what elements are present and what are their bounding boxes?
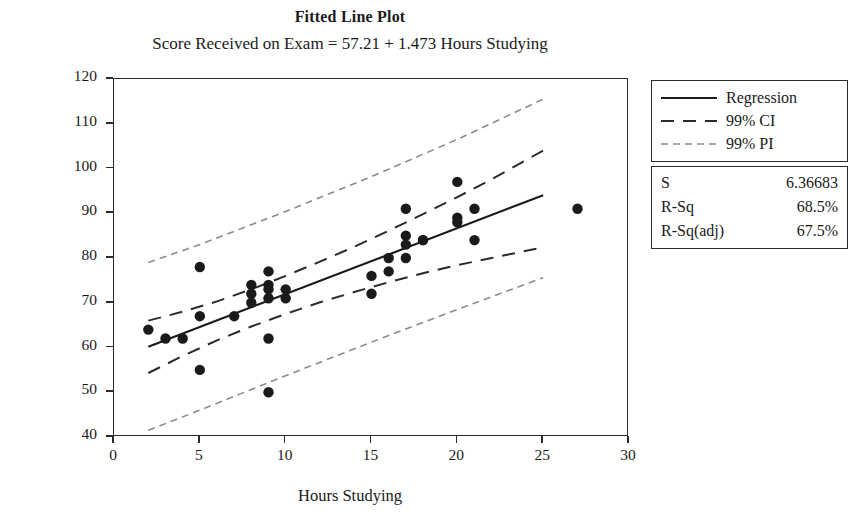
plot-area: [113, 78, 628, 436]
y-tick-mark: [106, 301, 113, 303]
data-point: [246, 289, 256, 299]
dotted-line-key: [652, 138, 726, 150]
y-tick-mark: [106, 390, 113, 392]
stat-value-rsq-adj: 67.5%: [797, 222, 838, 240]
x-tick-mark: [112, 436, 114, 443]
statistics-box: S 6.36683 R-Sq 68.5% R-Sq(adj) 67.5%: [651, 166, 848, 249]
y-tick-label: 60: [51, 336, 97, 354]
x-tick-mark: [456, 436, 458, 443]
data-point: [418, 235, 428, 245]
data-point: [366, 289, 376, 299]
data-point: [263, 387, 273, 397]
legend-label-regression: Regression: [726, 89, 797, 107]
data-point: [452, 217, 462, 227]
fitted-line-plot-figure: Fitted Line Plot Score Received on Exam …: [0, 0, 866, 522]
x-tick-mark: [284, 436, 286, 443]
x-tick-mark: [627, 436, 629, 443]
x-tick-mark: [541, 436, 543, 443]
y-tick-mark: [106, 122, 113, 124]
regression-line: [148, 195, 543, 347]
ci-lower-band: [148, 247, 543, 373]
stat-name-s: S: [661, 174, 670, 192]
y-tick-mark: [106, 256, 113, 258]
y-tick-mark: [106, 167, 113, 169]
y-tick-label: 110: [51, 112, 97, 130]
data-point: [143, 324, 153, 334]
data-point: [195, 311, 205, 321]
data-point: [452, 177, 462, 187]
stat-row-rsq: R-Sq 68.5%: [661, 195, 838, 219]
data-point: [246, 298, 256, 308]
data-point: [229, 311, 239, 321]
y-tick-mark: [106, 77, 113, 79]
pi-lower-band: [148, 278, 543, 431]
x-tick-label: 5: [176, 446, 222, 464]
y-tick-label: 70: [51, 291, 97, 309]
data-point: [177, 333, 187, 343]
x-tick-label: 30: [605, 446, 651, 464]
chart-title: Fitted Line Plot: [0, 8, 700, 26]
data-point: [280, 293, 290, 303]
legend-item: 99% CI: [652, 109, 847, 132]
legend-item: 99% PI: [652, 132, 847, 155]
data-point: [263, 333, 273, 343]
data-point: [572, 204, 582, 214]
legend-box: Regression 99% CI 99% PI: [651, 80, 848, 162]
data-point: [160, 333, 170, 343]
stat-row-rsq-adj: R-Sq(adj) 67.5%: [661, 219, 838, 243]
y-tick-mark: [106, 211, 113, 213]
x-tick-mark: [198, 436, 200, 443]
data-point: [401, 204, 411, 214]
stat-name-rsq: R-Sq: [661, 198, 694, 216]
data-point: [263, 293, 273, 303]
x-tick-label: 15: [348, 446, 394, 464]
x-tick-label: 20: [433, 446, 479, 464]
x-tick-mark: [370, 436, 372, 443]
y-tick-label: 100: [51, 157, 97, 175]
data-point: [401, 253, 411, 263]
y-tick-label: 50: [51, 380, 97, 398]
data-point: [469, 235, 479, 245]
y-tick-label: 120: [51, 67, 97, 85]
data-point: [401, 239, 411, 249]
plot-canvas: [114, 79, 629, 437]
x-axis-label: Hours Studying: [0, 486, 700, 506]
stat-row-s: S 6.36683: [661, 171, 838, 195]
ci-upper-band: [148, 151, 543, 321]
stat-name-rsq-adj: R-Sq(adj): [661, 222, 724, 240]
data-point: [195, 365, 205, 375]
solid-line-key: [652, 92, 726, 104]
data-point: [401, 230, 411, 240]
data-point: [280, 284, 290, 294]
x-tick-label: 25: [519, 446, 565, 464]
data-point: [469, 204, 479, 214]
y-tick-label: 80: [51, 246, 97, 264]
y-tick-label: 40: [51, 425, 97, 443]
data-point: [383, 253, 393, 263]
data-point: [246, 280, 256, 290]
stat-value-s: 6.36683: [786, 174, 838, 192]
pi-upper-band: [148, 99, 543, 262]
data-point: [366, 271, 376, 281]
y-tick-label: 90: [51, 201, 97, 219]
legend-label-ci: 99% CI: [726, 112, 775, 130]
legend-label-pi: 99% PI: [726, 135, 774, 153]
chart-subtitle: Score Received on Exam = 57.21 + 1.473 H…: [0, 34, 700, 54]
legend-item: Regression: [652, 86, 847, 109]
x-tick-label: 10: [262, 446, 308, 464]
dashed-line-key: [652, 115, 726, 127]
y-tick-mark: [106, 346, 113, 348]
x-tick-label: 0: [90, 446, 136, 464]
data-point: [383, 266, 393, 276]
stat-value-rsq: 68.5%: [797, 198, 838, 216]
data-point: [263, 266, 273, 276]
data-point: [195, 262, 205, 272]
data-point: [263, 284, 273, 294]
